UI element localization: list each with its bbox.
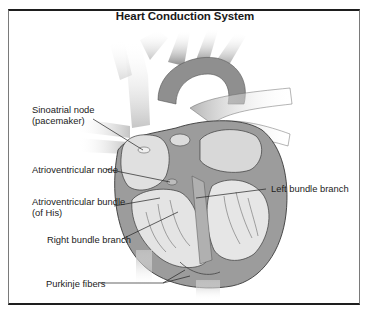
heart-illustration: [0, 0, 370, 320]
label-av-node: Atrioventricular node: [32, 164, 118, 175]
label-purkinje-fibers: Purkinje fibers: [46, 278, 105, 289]
superior-vena-cava: [110, 30, 168, 128]
left-atrium: [200, 130, 262, 173]
label-line: Atrioventricular bundle: [32, 196, 125, 207]
label-left-bundle-branch: Left bundle branch: [271, 183, 349, 194]
label-av-bundle: Atrioventricular bundle (of His): [32, 196, 125, 218]
inferior-vena-cava: [136, 250, 152, 286]
label-line: (pacemaker): [32, 115, 95, 126]
label-right-bundle-branch: Right bundle branch: [47, 234, 131, 245]
right-atrium: [121, 135, 169, 190]
label-line: Sinoatrial node: [32, 104, 95, 115]
label-line: (of His): [32, 207, 125, 218]
tricuspid-valve: [170, 134, 190, 146]
descending-aorta: [196, 280, 220, 300]
label-sinoatrial-node: Sinoatrial node (pacemaker): [32, 104, 95, 126]
